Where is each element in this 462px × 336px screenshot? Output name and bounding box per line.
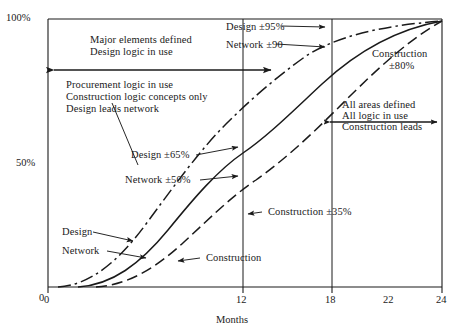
phase-left-line4: Construction logic concepts only (66, 91, 208, 103)
x-axis-title: Months (216, 314, 248, 325)
leader-design (93, 232, 133, 241)
curve-design (58, 21, 442, 287)
phase-right-line2: All logic in use (342, 110, 408, 122)
phase-left-line2: Design logic in use (90, 46, 173, 58)
phase-left-line1: Major elements defined (90, 34, 192, 46)
scurve-chart-figure: 100% 50% 0 0 12 18 22 24 Months Major el… (0, 0, 462, 336)
phase-right-line1: All areas defined (342, 99, 415, 111)
label-construction: Construction (206, 252, 261, 264)
leader-construction-35 (248, 212, 262, 214)
label-network-90: Network ±90 (226, 39, 283, 51)
phase-left-line5: Design leads network (66, 103, 159, 115)
label-construction-35: Construction ±35% (268, 206, 352, 218)
label-design: Design (62, 226, 92, 238)
label-construction-80-line1: Construction (372, 48, 427, 60)
label-construction-80-line2: ±80% (389, 60, 414, 72)
leader-network-50 (200, 176, 238, 180)
leader-network (107, 251, 146, 258)
annotation-leaders (93, 26, 325, 261)
x-tick-18: 18 (325, 294, 336, 305)
x-tick-0: 0 (44, 294, 49, 305)
leader-design-95 (281, 26, 325, 27)
month-reference-lines (243, 19, 332, 287)
x-tick-22: 22 (383, 294, 394, 305)
label-network: Network (62, 245, 99, 257)
phase-right-line3: Construction leads (342, 121, 422, 133)
label-design-95: Design ±95% (226, 21, 284, 33)
leader-design-65 (196, 147, 238, 155)
label-network-50: Network ±50% (125, 174, 191, 186)
leader-construction (178, 258, 200, 261)
y-tick-100: 100% (6, 12, 31, 23)
leader-network-90 (276, 44, 325, 47)
y-tick-50: 50% (16, 157, 35, 168)
label-design-65: Design ±65% (131, 149, 189, 161)
phase-left-line3: Procurement logic in use (66, 79, 173, 91)
x-tick-24: 24 (436, 294, 447, 305)
x-axis-ticks (48, 287, 442, 293)
x-tick-12: 12 (236, 294, 247, 305)
